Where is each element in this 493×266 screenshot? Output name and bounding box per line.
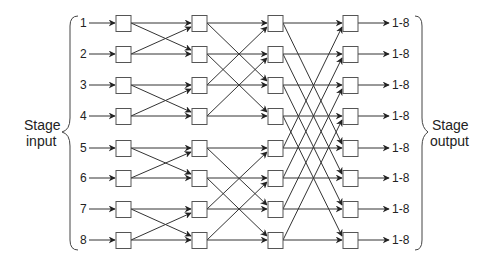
cross-wire <box>283 89 342 209</box>
cross-wire <box>207 58 267 116</box>
cross-wire <box>283 54 342 174</box>
switch-box <box>116 109 131 125</box>
switch-box <box>343 171 358 187</box>
output-label: 1-8 <box>392 141 410 155</box>
switch-box <box>116 171 131 187</box>
input-label: 7 <box>80 202 87 216</box>
switch-box <box>268 16 283 32</box>
switch-box <box>116 202 131 218</box>
switch-box <box>268 233 283 249</box>
stage-output-label-line2: output <box>430 133 469 149</box>
output-label: 1-8 <box>392 109 410 123</box>
stage-input-label-line2: input <box>26 133 56 149</box>
switch-box <box>116 233 131 249</box>
butterfly-network-diagram: Stage input Stage output 123456781-81-81… <box>0 0 493 266</box>
switch-box <box>192 16 207 32</box>
cross-wire <box>131 152 191 178</box>
switch-box <box>268 202 283 218</box>
cross-wire <box>131 27 191 54</box>
switch-box <box>192 233 207 249</box>
input-label: 2 <box>80 47 87 61</box>
cross-wire <box>207 54 267 112</box>
switch-box <box>268 171 283 187</box>
output-label: 1-8 <box>392 16 410 30</box>
switch-box <box>343 16 358 32</box>
cross-wire <box>207 27 267 85</box>
cross-wire <box>131 23 191 50</box>
switch-box <box>192 109 207 125</box>
switch-box <box>268 109 283 125</box>
cross-wire <box>131 209 191 236</box>
output-label: 1-8 <box>392 171 410 185</box>
cross-wire <box>131 148 191 174</box>
cross-wire <box>207 178 267 236</box>
switch-box <box>268 47 283 63</box>
switch-box <box>192 202 207 218</box>
output-label: 1-8 <box>392 47 410 61</box>
cross-wire <box>283 120 342 240</box>
switch-box <box>116 78 131 94</box>
cross-wire <box>207 23 267 81</box>
input-label: 4 <box>80 109 87 123</box>
switch-box <box>343 233 358 249</box>
cross-wire <box>131 85 191 112</box>
cross-wire <box>131 89 191 116</box>
switch-box <box>192 171 207 187</box>
cross-wire <box>207 152 267 209</box>
switch-box <box>343 78 358 94</box>
switch-box <box>116 16 131 32</box>
switch-box <box>343 141 358 157</box>
cross-wire <box>283 27 342 148</box>
switch-box <box>268 78 283 94</box>
switch-box <box>192 141 207 157</box>
cross-wire <box>207 148 267 205</box>
switch-box <box>343 47 358 63</box>
cross-wire <box>283 23 342 144</box>
input-label: 8 <box>80 233 87 247</box>
cross-wire <box>283 85 342 205</box>
cross-wire <box>207 182 267 240</box>
switch-box <box>268 141 283 157</box>
output-label: 1-8 <box>392 202 410 216</box>
switch-box <box>192 78 207 94</box>
left-brace <box>62 16 78 250</box>
switch-box <box>192 47 207 63</box>
output-label: 1-8 <box>392 78 410 92</box>
cross-wire <box>283 58 342 178</box>
input-label: 6 <box>80 171 87 185</box>
switch-box <box>343 202 358 218</box>
stage-input-label-line1: Stage <box>24 117 61 133</box>
cross-wire <box>283 116 342 236</box>
input-label: 3 <box>80 78 87 92</box>
right-brace <box>415 16 428 250</box>
cross-wire <box>131 213 191 240</box>
switch-box <box>116 141 131 157</box>
input-label: 5 <box>80 141 87 155</box>
input-label: 1 <box>80 16 87 30</box>
switch-box <box>343 109 358 125</box>
stage-output-label-line1: Stage <box>432 117 469 133</box>
switch-box <box>116 47 131 63</box>
output-label: 1-8 <box>392 233 410 247</box>
